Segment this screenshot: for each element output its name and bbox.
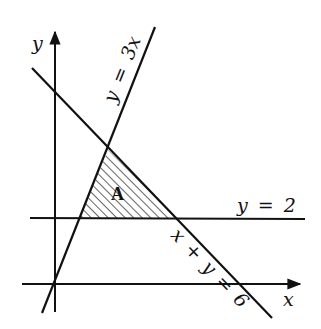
diagram-canvas: y x y = 2 y = 3x x + y = 6 A — [0, 0, 321, 329]
label-y-2: y = 2 — [236, 194, 296, 216]
y-axis-label: y — [31, 32, 43, 54]
region-a — [80, 150, 177, 218]
region-a-label: A — [111, 184, 124, 204]
label-x-plus-y-6: x + y = 6 — [167, 223, 253, 311]
line-y-3x — [42, 27, 155, 313]
x-axis-label: x — [283, 288, 294, 310]
line-y-2 — [30, 218, 305, 219]
